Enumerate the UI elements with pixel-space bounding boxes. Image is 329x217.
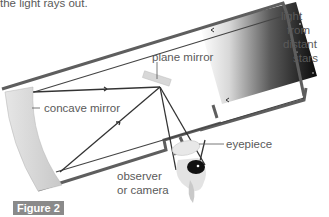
observer-eye bbox=[176, 158, 206, 203]
eyepiece-label: eyepiece bbox=[226, 138, 272, 151]
plane-mirror-label: plane mirror bbox=[152, 51, 213, 64]
concave-mirror-label: concave mirror bbox=[44, 102, 120, 115]
figure-label: Figure 2 bbox=[13, 201, 64, 215]
label-line: stars bbox=[293, 52, 318, 65]
label-line: observer bbox=[117, 170, 162, 183]
caption-text: the light rays out. bbox=[0, 0, 88, 10]
label-line: light bbox=[281, 10, 302, 23]
label-line: from bbox=[287, 24, 310, 37]
label-line: distant bbox=[283, 38, 317, 51]
label-line: or camera bbox=[117, 184, 169, 197]
